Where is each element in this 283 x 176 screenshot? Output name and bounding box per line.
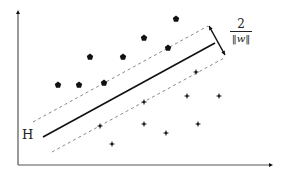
svm-diagram: H 2 ‖w‖	[0, 0, 283, 176]
x-axis-arrowhead-icon	[269, 163, 273, 167]
class-b-points	[97, 69, 222, 147]
diamond-point-icon	[109, 141, 115, 147]
diamond-point-icon	[184, 93, 190, 99]
diamond-point-icon	[97, 123, 103, 129]
margin-denominator: ‖w‖	[230, 33, 252, 44]
pentagon-point-icon	[101, 80, 107, 86]
upper-margin-line	[33, 26, 208, 122]
margin-numerator: 2	[230, 18, 252, 30]
pentagon-point-icon	[141, 35, 147, 41]
hyperplane-label: H	[22, 128, 33, 141]
diamond-point-icon	[141, 121, 147, 127]
pentagon-point-icon	[120, 54, 126, 60]
pentagon-point-icon	[87, 54, 93, 60]
lower-margin-line	[52, 57, 226, 152]
diamond-point-icon	[216, 93, 222, 99]
margin-width-arrow	[209, 26, 225, 55]
margin-formula: 2 ‖w‖	[230, 18, 252, 44]
hyperplane	[43, 43, 215, 137]
fraction-bar	[230, 31, 252, 32]
diamond-point-icon	[141, 99, 147, 105]
pentagon-point-icon	[173, 16, 179, 22]
y-axis-arrowhead-icon	[16, 10, 20, 14]
diamond-point-icon	[195, 121, 201, 127]
hyperplane-line	[43, 43, 215, 137]
pentagon-point-icon	[76, 82, 82, 88]
pentagon-point-icon	[55, 82, 61, 88]
diamond-point-icon	[163, 130, 169, 136]
pentagon-point-icon	[165, 45, 171, 51]
diamond-point-icon	[193, 69, 199, 75]
margin-arrow-shaft	[209, 26, 225, 55]
